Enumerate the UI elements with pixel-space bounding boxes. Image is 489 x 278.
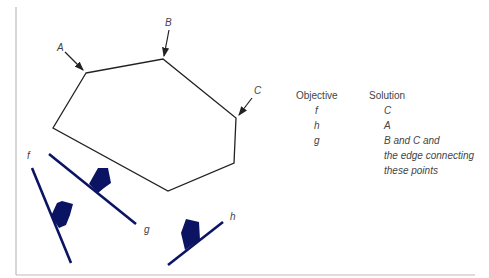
row-solution: B and C and: [384, 135, 440, 146]
objective-f-label: f: [27, 150, 31, 161]
diagram-canvas: A B C f g h Objective Solution f C h A g…: [0, 0, 489, 278]
vertex-c-arrow: [239, 98, 252, 115]
vertex-a-arrow: [65, 52, 83, 70]
row-solution-continued: the edge connecting: [384, 150, 475, 161]
header-solution: Solution: [369, 90, 405, 101]
vertex-b-arrow: [164, 30, 169, 56]
vertex-a-label: A: [56, 42, 64, 53]
header-objective: Objective: [296, 90, 338, 101]
row-solution: A: [383, 120, 391, 131]
row-solution-continued: these points: [384, 165, 438, 176]
row-objective: g: [314, 135, 320, 146]
vertex-b-label: B: [165, 17, 172, 28]
vertex-c-label: C: [254, 85, 262, 96]
objective-h-arrow-icon: [181, 219, 200, 250]
row-objective: f: [315, 105, 319, 116]
objective-g-label: g: [144, 224, 150, 235]
row-objective: h: [314, 120, 320, 131]
objective-h-label: h: [230, 211, 236, 222]
feasible-polygon: [53, 59, 236, 191]
row-solution: C: [384, 105, 392, 116]
